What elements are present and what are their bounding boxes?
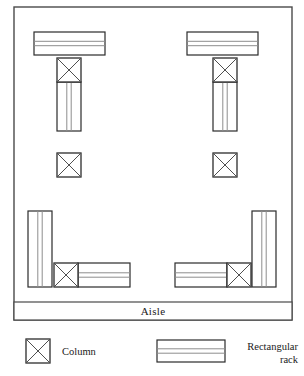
top-left-vertical-rack (57, 82, 81, 131)
bottom-right-column (227, 263, 251, 287)
top-left-horizontal-rack (34, 32, 105, 55)
middle-left-column (57, 153, 81, 177)
legend-column-label: Column (62, 346, 97, 357)
top-right-horizontal-rack-body (187, 32, 258, 55)
legend-column-swatch (26, 339, 50, 363)
bottom-right-vertical-rack (252, 211, 276, 287)
bottom-left-vertical-rack-body (28, 211, 52, 287)
middle-right-column (213, 153, 237, 177)
top-right-vertical-rack-body (213, 82, 237, 131)
bottom-left-horizontal-rack-body (78, 263, 130, 287)
layout-svg: Aisle Column Rectangular rack (0, 0, 304, 376)
bottom-right-horizontal-rack (175, 263, 227, 287)
legend-rack-label-line-1: Rectangular (247, 341, 298, 352)
bottom-left-horizontal-rack (78, 263, 130, 287)
top-right-vertical-rack (213, 82, 237, 131)
legend-column-icon (26, 339, 50, 363)
top-left-horizontal-rack-body (34, 32, 105, 55)
bottom-right-horizontal-rack-body (175, 263, 227, 287)
bottom-left-vertical-rack (28, 211, 52, 287)
bottom-left-column (54, 263, 78, 287)
top-right-horizontal-rack (187, 32, 258, 55)
top-left-column (57, 58, 81, 82)
aisle-label: Aisle (141, 305, 166, 317)
bottom-right-vertical-rack-body (252, 211, 276, 287)
legend-rack-label-line-2: rack (280, 354, 299, 365)
legend-rack-swatch (157, 340, 225, 362)
top-right-column (213, 58, 237, 82)
top-left-vertical-rack-body (57, 82, 81, 131)
warehouse-layout-diagram: Aisle Column Rectangular rack (0, 0, 304, 376)
legend-rack-icon-body (157, 340, 225, 362)
